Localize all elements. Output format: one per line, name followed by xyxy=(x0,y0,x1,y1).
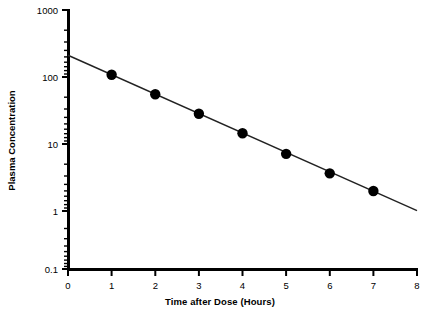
data-point xyxy=(325,168,335,178)
y-axis-tick-labels: 1000 100 10 1 0.1 xyxy=(37,5,58,275)
x-tick-label: 5 xyxy=(283,280,288,291)
x-tick-label: 4 xyxy=(240,280,245,291)
x-tick-label: 7 xyxy=(371,280,376,291)
data-point xyxy=(150,89,160,99)
y-tick-label: 0.1 xyxy=(45,264,58,275)
y-axis-label-wrap: Plasma Concentration xyxy=(0,0,22,280)
x-tick-label: 6 xyxy=(327,280,332,291)
data-point-group xyxy=(106,70,378,197)
y-axis-label: Plasma Concentration xyxy=(6,90,17,190)
data-point xyxy=(194,109,204,119)
data-point xyxy=(281,149,291,159)
x-tick-label: 1 xyxy=(109,280,114,291)
data-point xyxy=(106,70,116,80)
plasma-concentration-chart: 1000 100 10 1 0.1 0 1 2 3 4 5 6 7 8 Plas… xyxy=(0,0,440,320)
data-point xyxy=(237,128,247,138)
x-tick-label: 2 xyxy=(153,280,158,291)
x-tick-label: 8 xyxy=(414,280,419,291)
chart-canvas: 1000 100 10 1 0.1 0 1 2 3 4 5 6 7 8 xyxy=(0,0,440,320)
x-axis-tick-labels: 0 1 2 3 4 5 6 7 8 xyxy=(65,280,419,291)
data-point xyxy=(368,186,378,196)
x-tick-label: 0 xyxy=(65,280,70,291)
y-tick-label: 1 xyxy=(53,206,58,217)
y-tick-label: 100 xyxy=(42,72,58,83)
y-tick-label: 1000 xyxy=(37,5,58,16)
x-tick-label: 3 xyxy=(196,280,201,291)
y-tick-label: 10 xyxy=(47,139,58,150)
axes-group xyxy=(67,9,418,270)
x-axis-label: Time after Dose (Hours) xyxy=(0,296,440,307)
